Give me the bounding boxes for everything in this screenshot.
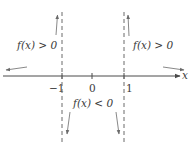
region-label-middle: f(x) < 0: [72, 97, 113, 109]
arrow-down-left-icon: [67, 112, 70, 134]
arrow-up-right-icon: [128, 15, 129, 36]
x-axis-label: x: [182, 69, 188, 81]
arrow-far-left-icon: [6, 67, 27, 70]
arrow-far-right-icon: [163, 67, 184, 70]
tick-label-0: 0: [89, 82, 96, 94]
region-label-left: f(x) > 0: [16, 39, 57, 51]
sign-chart-diagram: x −1 0 1 f(x) > 0 f(x) > 0 f(x) < 0: [0, 0, 189, 143]
arrow-down-right-icon: [116, 112, 119, 134]
arrow-up-left-icon: [56, 15, 58, 35]
tick-label-1: 1: [126, 82, 133, 94]
region-label-right: f(x) > 0: [132, 39, 173, 51]
